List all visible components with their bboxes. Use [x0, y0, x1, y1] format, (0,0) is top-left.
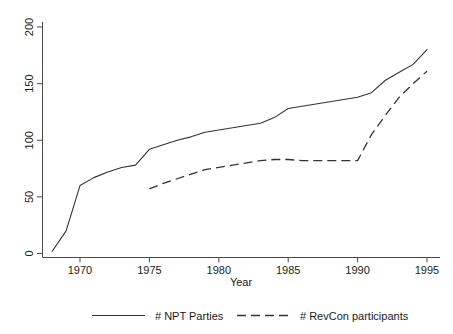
y-tick-label: 100 — [23, 131, 35, 149]
x-tick-label: 1995 — [415, 264, 439, 276]
x-tick-label: 1970 — [68, 264, 92, 276]
x-tick-label: 1990 — [345, 264, 369, 276]
y-tick-label: 50 — [23, 191, 35, 203]
x-axis-title: Year — [230, 276, 253, 288]
legend-label-revcon-participants: # RevCon participants — [300, 310, 409, 322]
plot-axes — [43, 22, 441, 258]
chart-legend: # NPT Parties # RevCon participants — [92, 310, 409, 322]
y-tick-label: 200 — [23, 18, 35, 36]
npt-parties-line-chart: 050100150200 197019751980198519901995 Ye… — [0, 0, 453, 334]
series-line-npt-parties — [52, 50, 427, 252]
y-tick-label: 0 — [23, 250, 35, 256]
legend-label-npt-parties: # NPT Parties — [155, 310, 224, 322]
y-axis-ticks: 050100150200 — [23, 18, 43, 257]
y-tick-label: 150 — [23, 74, 35, 92]
series-group — [52, 50, 427, 252]
x-tick-label: 1980 — [207, 264, 231, 276]
series-line-revcon-participants — [149, 71, 427, 189]
x-tick-label: 1985 — [276, 264, 300, 276]
x-tick-label: 1975 — [137, 264, 161, 276]
x-axis-ticks: 197019751980198519901995 — [68, 258, 439, 277]
